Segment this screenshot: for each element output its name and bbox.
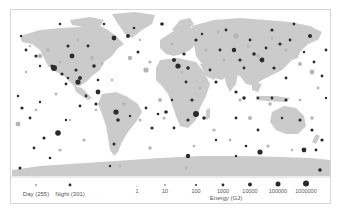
size-label-1000000: 1000000 [295,188,316,194]
size-legend-10000 [248,183,252,187]
new-zealand [312,134,320,144]
figure: Day (255) Night (301) 1 10 100 1000 1000… [0,0,344,213]
madagascar [206,108,210,120]
central-america [74,86,92,100]
day-legend-label: Day (255) [23,191,49,197]
energy-legend-title: Energy (GJ) [210,195,242,201]
night-legend-label: Night (301) [55,191,85,197]
size-legend-10 [164,184,165,185]
greenland [112,12,155,38]
size-legend-1 [137,186,138,187]
arctic-islands [70,17,104,27]
legend: Day (255) Night (301) 1 10 100 1000 1000… [10,177,331,201]
size-label-1000: 1000 [217,188,229,194]
size-label-100000: 100000 [269,188,287,194]
size-legend-1000000 [303,181,309,187]
size-legend-100000 [276,182,281,187]
size-label-10: 10 [162,188,168,194]
india [224,72,238,92]
size-label-10000: 10000 [242,188,257,194]
size-legend-100 [195,184,197,186]
size-label-1: 1 [135,188,138,194]
size-legend-1000 [222,184,225,187]
map-chart: Day (255) Night (301) 1 10 100 1000 1000… [0,0,344,213]
size-label-100: 100 [191,188,200,194]
day-legend-swatch [35,184,37,186]
south-america [98,92,142,156]
antarctica [12,156,330,176]
night-legend-swatch [69,184,72,187]
